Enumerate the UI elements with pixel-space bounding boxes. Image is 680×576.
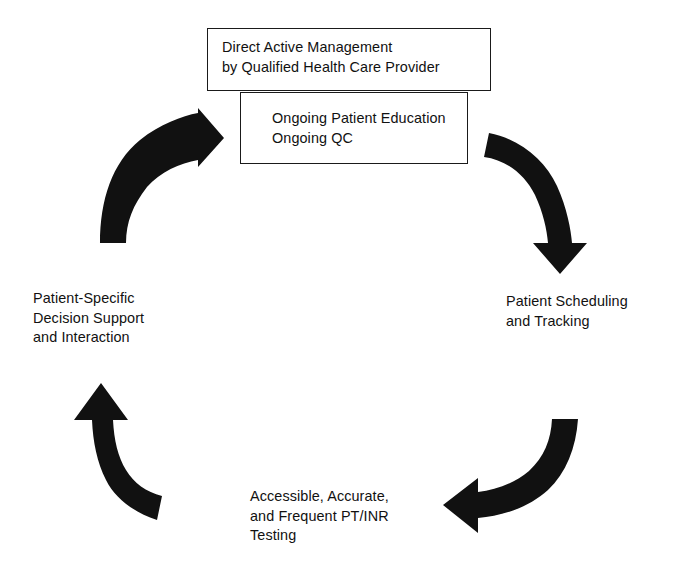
decision-support-label: Patient-Specific Decision Support and In…: [33, 289, 144, 348]
ongoing-education-box: Ongoing Patient Education Ongoing QC: [240, 92, 468, 164]
arrow-to-testing: [443, 419, 578, 533]
direct-active-management-box: Direct Active Management by Qualified He…: [207, 28, 491, 91]
cycle-diagram: Direct Active Management by Qualified He…: [0, 0, 680, 576]
ptinr-testing-label: Accessible, Accurate, and Frequent PT/IN…: [250, 487, 389, 546]
patient-scheduling-label: Patient Scheduling and Tracking: [506, 292, 628, 331]
arrow-to-management: [100, 108, 224, 243]
ongoing-education-text: Ongoing Patient Education Ongoing QC: [272, 109, 446, 148]
direct-active-management-text: Direct Active Management by Qualified He…: [222, 38, 440, 77]
arrow-to-scheduling: [484, 133, 587, 274]
arrow-to-decision-support: [74, 383, 162, 520]
